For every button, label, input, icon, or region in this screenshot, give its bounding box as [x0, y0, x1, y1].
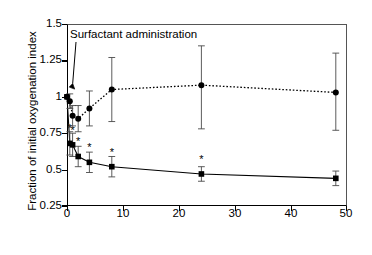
x-axis-tick-labels: 0 10 20 30 40 50 [0, 208, 372, 228]
figure-root: 1.5 1.25 1 0.75 0.5 0.25 ****** 0 10 20 … [0, 0, 372, 255]
x-tick-label: 0 [64, 208, 70, 220]
y-axis-title: Fraction of initial oxygenation index [26, 26, 38, 216]
x-tick-label: 10 [117, 208, 130, 220]
annotation-arrow-head-icon [69, 84, 74, 90]
significance-asterisk: * [87, 141, 92, 153]
data-point-marker [198, 82, 204, 88]
data-point-marker [86, 105, 92, 111]
annotation-leader [69, 42, 76, 89]
data-point-marker [75, 116, 81, 122]
significance-asterisk: * [76, 135, 81, 147]
data-point-marker [70, 142, 76, 148]
data-point-marker [75, 154, 81, 160]
data-point-marker [109, 87, 115, 93]
significance-asterisk: * [110, 146, 115, 158]
data-point-marker [70, 113, 76, 119]
series-1 [64, 46, 339, 132]
data-point-marker [333, 89, 339, 95]
x-tick-label: 50 [340, 208, 353, 220]
data-point-marker [87, 160, 93, 166]
data-point-marker [199, 171, 205, 177]
significance-asterisk: * [199, 153, 204, 165]
x-tick-label: 30 [229, 208, 242, 220]
x-tick-label: 20 [173, 208, 186, 220]
x-tick-label: 40 [285, 208, 298, 220]
data-point-marker [333, 176, 339, 182]
data-point-marker [67, 98, 73, 104]
surfactant-annotation-label: Surfactant administration [70, 28, 197, 41]
data-point-marker [109, 164, 115, 170]
